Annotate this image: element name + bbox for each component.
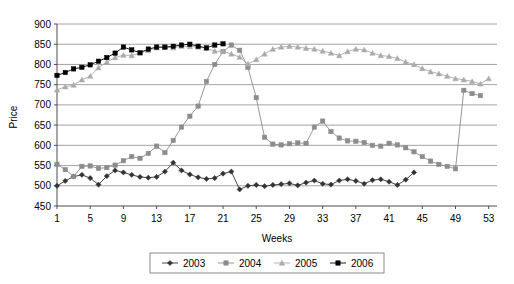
data-point: [362, 140, 366, 144]
data-point: [420, 66, 425, 71]
data-point: [54, 87, 59, 92]
data-point: [237, 48, 241, 52]
data-point: [154, 45, 158, 49]
y-tick-label: 700: [34, 99, 51, 110]
data-point: [196, 104, 200, 108]
data-point: [237, 187, 242, 192]
data-point: [96, 166, 100, 170]
data-point: [337, 178, 342, 183]
y-tick-label: 900: [34, 19, 51, 30]
data-point: [428, 69, 433, 74]
data-point: [245, 183, 250, 188]
data-point: [254, 57, 259, 62]
data-point: [437, 162, 441, 166]
x-tick-label: 53: [483, 213, 495, 224]
x-tick-label: 9: [121, 213, 127, 224]
data-point: [163, 45, 167, 49]
data-point: [213, 43, 217, 47]
data-point: [55, 73, 59, 77]
data-point: [337, 136, 341, 140]
data-point: [96, 65, 101, 70]
data-point: [80, 65, 84, 69]
data-point: [420, 154, 424, 158]
data-point: [353, 46, 358, 51]
y-tick-label: 650: [34, 120, 51, 131]
data-point: [121, 170, 126, 175]
data-point: [345, 139, 349, 143]
y-tick-label: 850: [34, 39, 51, 50]
data-point: [79, 172, 84, 177]
data-point: [187, 172, 192, 177]
data-point: [262, 184, 267, 189]
x-tick-label: 5: [87, 213, 93, 224]
data-point: [105, 55, 109, 59]
data-point: [220, 171, 225, 176]
x-tick-label: 1: [54, 213, 60, 224]
data-point: [163, 150, 167, 154]
data-point: [229, 43, 233, 47]
x-tick-label: 37: [350, 213, 362, 224]
data-point: [453, 167, 457, 171]
data-point: [279, 143, 283, 147]
data-point: [378, 177, 383, 182]
data-point: [154, 144, 158, 148]
legend-label-2006: 2006: [351, 258, 374, 269]
x-tick-label: 13: [151, 213, 163, 224]
data-point: [138, 156, 142, 160]
data-point: [113, 168, 118, 173]
data-point: [80, 164, 84, 168]
data-point: [121, 159, 125, 163]
data-point: [428, 159, 432, 163]
x-tick-label: 33: [317, 213, 329, 224]
data-point: [204, 176, 209, 181]
data-point: [403, 59, 408, 64]
data-point: [295, 183, 300, 188]
data-point: [303, 180, 308, 185]
data-point: [212, 175, 217, 180]
y-tick-label: 500: [34, 180, 51, 191]
x-tick-label: 17: [184, 213, 196, 224]
x-axis-title: Weeks: [262, 233, 292, 244]
data-point: [121, 45, 125, 49]
data-point: [88, 164, 92, 168]
data-point: [213, 62, 217, 66]
data-point: [470, 91, 474, 95]
data-point: [353, 178, 358, 183]
data-point: [287, 181, 292, 186]
x-tick-label: 49: [450, 213, 462, 224]
data-point: [54, 183, 59, 188]
price-weeks-line-chart: 450500550600650700750800850900 159131721…: [0, 0, 514, 284]
data-point: [370, 178, 375, 183]
series-2003: [54, 160, 416, 192]
data-point: [370, 143, 374, 147]
data-point: [296, 141, 300, 145]
data-point: [88, 63, 92, 67]
data-point: [387, 141, 391, 145]
data-point: [146, 47, 150, 51]
data-point: [345, 177, 350, 182]
data-point: [113, 163, 117, 167]
data-point: [154, 174, 159, 179]
data-point: [196, 175, 201, 180]
data-point: [63, 70, 67, 74]
x-tick-label: 25: [251, 213, 263, 224]
data-point: [287, 142, 291, 146]
data-point: [171, 138, 175, 142]
data-point: [229, 169, 234, 174]
x-tick-label: 45: [417, 213, 429, 224]
data-point: [138, 51, 142, 55]
data-point: [386, 179, 391, 184]
data-point: [146, 151, 150, 155]
data-point: [254, 182, 259, 187]
data-point: [270, 182, 275, 187]
data-point: [354, 139, 358, 143]
data-point: [312, 178, 317, 183]
data-point: [204, 46, 208, 50]
data-point: [137, 174, 142, 179]
data-point: [329, 129, 333, 133]
data-point: [129, 172, 134, 177]
series-2006: [55, 42, 225, 78]
data-point: [105, 165, 109, 169]
chart-canvas: 450500550600650700750800850900 159131721…: [0, 0, 514, 284]
data-point: [71, 174, 75, 178]
